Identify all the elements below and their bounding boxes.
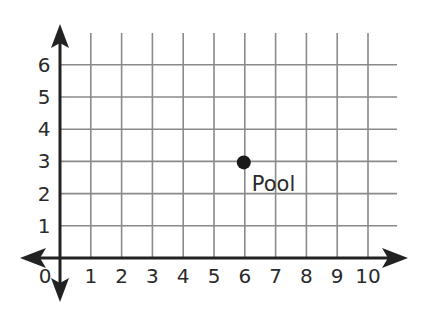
- x-tick-labels: 123456789100: [39, 264, 381, 288]
- x-tick-label: 5: [208, 264, 221, 288]
- x-tick-label: 2: [115, 264, 128, 288]
- y-tick-label: 6: [38, 53, 51, 77]
- coordinate-grid-chart: 123456789100 123456 Pool: [0, 0, 429, 323]
- x-tick-label: 9: [331, 264, 344, 288]
- y-tick-label: 3: [38, 149, 51, 173]
- y-tick-label: 1: [38, 214, 51, 238]
- y-tick-label: 2: [38, 182, 51, 206]
- y-tick-labels: 123456: [38, 53, 51, 238]
- grid-lines: [60, 33, 397, 258]
- x-tick-label: 7: [269, 264, 282, 288]
- x-tick-label: 10: [355, 264, 380, 288]
- y-tick-label: 4: [38, 117, 51, 141]
- point-marker: [237, 155, 251, 169]
- x-tick-label: 4: [177, 264, 190, 288]
- x-tick-label: 6: [238, 264, 251, 288]
- y-tick-label: 5: [38, 85, 51, 109]
- origin-label: 0: [39, 264, 52, 288]
- x-tick-label: 8: [300, 264, 313, 288]
- x-tick-label: 3: [146, 264, 159, 288]
- point-label: Pool: [252, 172, 295, 196]
- x-tick-label: 1: [84, 264, 97, 288]
